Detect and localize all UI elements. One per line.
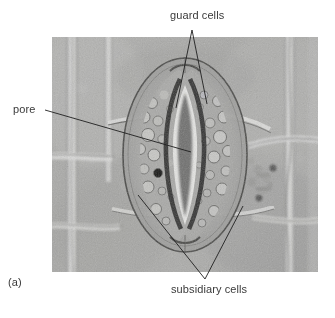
figure-panel: guard cells pore subsidiary cells (a) [0, 0, 335, 318]
exposure-overlay [52, 37, 318, 272]
label-guard-cells: guard cells [170, 9, 224, 21]
micrograph-content [52, 37, 318, 272]
panel-label: (a) [8, 276, 22, 288]
stoma-micrograph-image [52, 37, 318, 272]
micrograph-svg [52, 37, 318, 272]
label-pore: pore [13, 103, 35, 115]
label-subsidiary-cells: subsidiary cells [171, 283, 247, 295]
